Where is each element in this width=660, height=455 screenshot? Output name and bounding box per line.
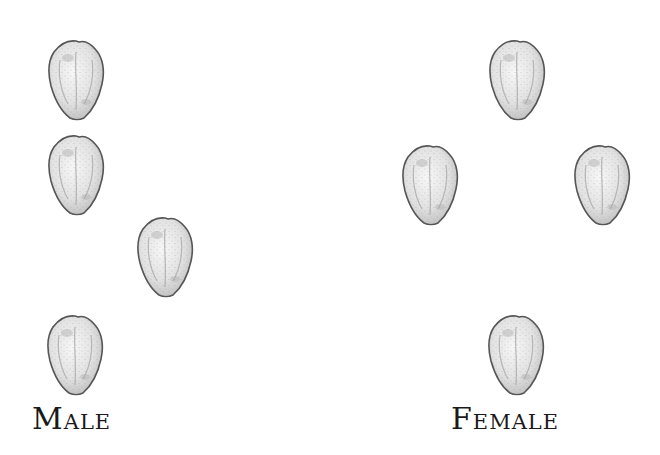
female-label: Female <box>451 404 559 434</box>
seed-icon <box>135 215 195 299</box>
seed-icon <box>46 133 106 217</box>
seed-icon <box>400 143 460 227</box>
seed-icon <box>46 38 106 122</box>
seed-icon <box>487 38 547 122</box>
seed-icon <box>486 313 546 397</box>
male-label: Male <box>32 404 111 434</box>
seed-icon <box>572 143 632 227</box>
seed-icon <box>45 313 105 397</box>
